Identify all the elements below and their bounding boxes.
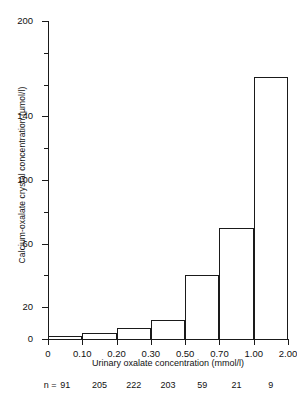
x-tick bbox=[48, 339, 49, 345]
y-tick-minor bbox=[44, 275, 49, 276]
sample-size-value: 9 bbox=[268, 381, 273, 390]
bar bbox=[82, 333, 116, 339]
plot-area: 02060100140200 00.100.200.300.500.701.00… bbox=[48, 21, 288, 339]
bar bbox=[254, 77, 288, 339]
y-tick-label: 100 bbox=[17, 175, 33, 185]
sample-size-value: 21 bbox=[232, 381, 242, 390]
sample-size-value: 59 bbox=[197, 381, 207, 390]
y-tick-major: 60 bbox=[42, 244, 49, 245]
bar bbox=[117, 328, 151, 339]
bar bbox=[151, 320, 185, 339]
x-tick bbox=[151, 339, 152, 345]
bar bbox=[219, 228, 253, 339]
x-axis-title: Urinary oxalate concentration (mmol/l) bbox=[48, 358, 288, 368]
sample-size-value: 205 bbox=[92, 381, 107, 390]
bar bbox=[185, 275, 219, 339]
y-tick-label: 0 bbox=[28, 334, 33, 344]
y-tick-major: 20 bbox=[42, 307, 49, 308]
sample-size-value: 91 bbox=[60, 381, 70, 390]
y-tick-minor bbox=[44, 148, 49, 149]
y-tick-minor bbox=[44, 85, 49, 86]
y-tick-minor bbox=[44, 53, 49, 54]
sample-size-value: 203 bbox=[160, 381, 175, 390]
x-axis-line bbox=[48, 339, 288, 340]
chart-figure: Calcium-oxalate crystal concentration (µ… bbox=[0, 0, 297, 408]
y-tick-major: 140 bbox=[42, 116, 49, 117]
sample-size-value: 222 bbox=[126, 381, 141, 390]
x-tick bbox=[82, 339, 83, 345]
y-tick-major: 200 bbox=[42, 21, 49, 22]
sample-size-label: n = bbox=[44, 381, 57, 390]
y-tick-label: 140 bbox=[17, 112, 33, 122]
y-tick-minor bbox=[44, 212, 49, 213]
y-tick-major: 100 bbox=[42, 180, 49, 181]
y-tick-label: 60 bbox=[22, 239, 33, 249]
y-tick-label: 200 bbox=[17, 16, 33, 26]
y-tick-label: 20 bbox=[22, 302, 33, 312]
x-tick bbox=[288, 339, 289, 345]
x-tick bbox=[219, 339, 220, 345]
x-tick bbox=[117, 339, 118, 345]
x-tick bbox=[254, 339, 255, 345]
x-tick bbox=[185, 339, 186, 345]
bar bbox=[48, 336, 82, 339]
sample-size-row: n =9120522220359219 bbox=[0, 381, 297, 395]
